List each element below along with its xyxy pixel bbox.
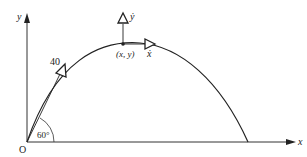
xdot-label: ẋ: [146, 48, 152, 59]
x-axis-label: x: [297, 136, 303, 147]
speed-label: 40: [50, 56, 60, 67]
angle-label: 60°: [37, 130, 50, 140]
x-axis-arrow-icon: [286, 139, 296, 145]
y-axis-arrow-icon: [24, 13, 30, 23]
x-axis: x: [27, 136, 303, 147]
y-axis-label: y: [16, 11, 22, 22]
y-axis: y: [16, 11, 30, 142]
projectile-diagram: x y O 40 60° (x, y) ẏ ẋ: [0, 0, 307, 157]
open-arrowhead-icon: [118, 13, 128, 23]
trajectory-curve: [27, 43, 248, 142]
origin-label: O: [19, 144, 26, 155]
ydot-vector: ẏ: [118, 11, 135, 44]
ydot-label: ẏ: [129, 11, 135, 22]
point-label: (x, y): [116, 49, 134, 59]
